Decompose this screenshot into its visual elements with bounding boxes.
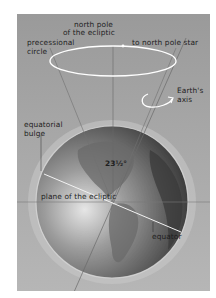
label-tilt-angle: 23½°	[105, 160, 127, 168]
label-precessional-circle-2: circle	[27, 48, 47, 56]
label-equator: equator	[152, 233, 182, 241]
label-north-pole-ecliptic-2: of the ecliptic	[63, 29, 115, 37]
label-plane-of-ecliptic: plane of the ecliptic	[41, 193, 116, 201]
rotation-arrow	[142, 94, 172, 107]
label-to-north-pole-star: to north pole star	[132, 39, 198, 47]
label-earths-axis-2: axis	[177, 96, 192, 104]
label-equatorial-bulge-2: bulge	[24, 130, 45, 138]
north-pole-star-marker	[122, 45, 125, 48]
